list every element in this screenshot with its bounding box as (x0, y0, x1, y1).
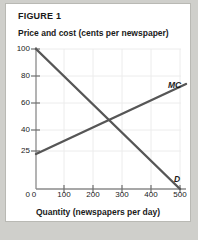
x-tick-200: 200 (81, 190, 105, 199)
demand-curve (36, 49, 180, 189)
curve-label-d: D (174, 174, 180, 184)
marginal-cost-curve (36, 84, 186, 154)
y-tick-25: 25 (8, 146, 30, 155)
y-tick-100: 100 (8, 44, 30, 53)
x-tick-100: 100 (52, 190, 76, 199)
y-tick-80: 80 (8, 71, 30, 80)
x-tick-400: 400 (139, 190, 163, 199)
y-tick-60: 60 (8, 98, 30, 107)
curve-label-mc: MC (168, 80, 181, 90)
x-tick-300: 300 (110, 190, 134, 199)
x-tick-500: 500 (168, 190, 192, 199)
y-tick-40: 40 (8, 125, 30, 134)
x-tick-0: 0 (22, 190, 46, 199)
